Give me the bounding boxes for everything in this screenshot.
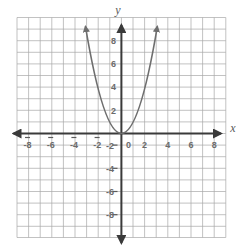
y-tick-label: 6	[111, 59, 116, 69]
origin-label: 0	[126, 140, 131, 150]
y-tick-label: 4	[111, 82, 116, 92]
y-tick-label: -4	[106, 164, 114, 174]
y-tick-label: -8	[106, 210, 114, 220]
x-tick-label: 6	[188, 140, 193, 150]
graph-figure: -8 -6 -4 -2 2 4 6 8 0 8 6 4 2 -2 -4 -6 -…	[0, 0, 248, 251]
coordinate-plane: -8 -6 -4 -2 2 4 6 8 0 8 6 4 2 -2 -4 -6 -…	[0, 0, 248, 251]
x-axis-label: x	[229, 121, 236, 135]
y-axis-label: y	[114, 3, 121, 17]
figure-background	[0, 0, 248, 251]
x-tick-label: -4	[70, 140, 78, 150]
x-tick-label: 2	[142, 140, 147, 150]
y-tick-label: -6	[106, 187, 114, 197]
x-tick-label: -8	[24, 140, 32, 150]
x-tick-label: -6	[47, 140, 55, 150]
x-tick-label: 8	[212, 140, 217, 150]
y-tick-label: 8	[111, 36, 116, 46]
y-tick-label: -2	[106, 141, 114, 151]
x-tick-label: -2	[93, 140, 101, 150]
y-tick-label: 2	[111, 106, 116, 116]
x-tick-label: 4	[165, 140, 170, 150]
